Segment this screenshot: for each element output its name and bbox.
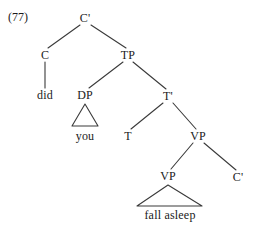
node-c: C <box>41 48 49 63</box>
branch-tp-to-t-bar <box>133 62 166 89</box>
example-number: (77) <box>8 10 28 25</box>
triangle-vp-lower <box>137 185 202 206</box>
node-c-bar-low: C' <box>233 170 244 185</box>
figure-canvas: C'CTPdidDPT'youTVPVPC'fall asleep (77) <box>0 0 270 232</box>
node-vp-upper: VP <box>190 129 206 144</box>
node-t-bar: T' <box>163 89 173 104</box>
tree-lines <box>0 0 270 232</box>
branch-lines <box>45 25 236 170</box>
branch-tp-to-dp <box>89 62 123 88</box>
node-t: T <box>124 129 132 144</box>
triangle-dp <box>72 104 98 126</box>
node-vp-lower: VP <box>160 169 176 184</box>
node-fall-asleep: fall asleep <box>144 208 195 223</box>
branch-vp-upper-to-vp-lower <box>171 143 193 169</box>
branch-t-bar-to-t <box>131 103 163 129</box>
node-you: you <box>76 129 95 144</box>
node-c-bar-top: C' <box>80 11 91 26</box>
branch-c-bar-top-to-c <box>48 25 80 48</box>
node-dp: DP <box>77 88 93 103</box>
node-tp: TP <box>121 48 135 63</box>
node-did: did <box>37 88 53 103</box>
branch-c-bar-top-to-tp <box>91 25 126 48</box>
branch-vp-upper-to-c-bar-low <box>204 143 236 170</box>
branch-t-bar-to-vp-upper <box>173 103 196 129</box>
